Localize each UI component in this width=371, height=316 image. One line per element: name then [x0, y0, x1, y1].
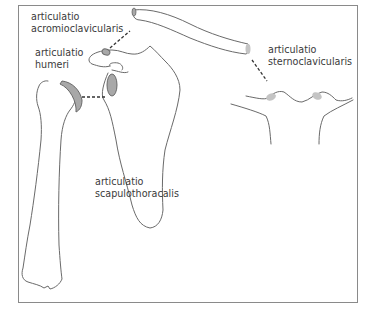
clavicle — [133, 10, 250, 54]
label-scapulothoracic: articulatio scapulothoracalis — [95, 176, 179, 199]
rib-left — [231, 104, 271, 144]
acromion-facet — [101, 48, 111, 56]
label-acromioclavicular: articulatio acromioclavicularis — [31, 11, 123, 34]
sternoclavicular-left-facet — [265, 92, 277, 102]
humeral-head-joint — [60, 81, 82, 112]
label-humeri: articulatio humeri — [35, 47, 83, 70]
sternum-manubrium — [246, 91, 352, 102]
humerus — [22, 81, 76, 289]
clavicle-sternal-end — [246, 44, 251, 54]
glenoid-cavity — [107, 74, 117, 96]
rib-right — [319, 100, 353, 144]
connector-sternoclavicular — [252, 60, 267, 81]
clavicle-acromial-end — [132, 8, 136, 16]
scapula — [89, 46, 180, 228]
label-sternoclavicular: articulatio sternoclavicularis — [268, 44, 352, 67]
